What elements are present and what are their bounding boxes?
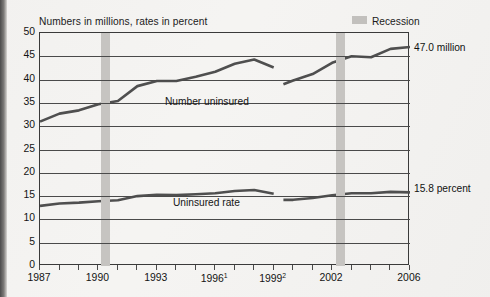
series-label-number-uninsured: Number uninsured — [165, 96, 249, 107]
xtick-label-1999: 19992 — [259, 272, 286, 284]
ytick-label-5: 5 — [11, 236, 35, 247]
xtick-mark-1989 — [78, 265, 79, 270]
callout-uninsured-rate: 15.8 percent — [414, 183, 471, 194]
xtick-mark-1996 — [214, 265, 215, 270]
xtick-label-1993: 1993 — [144, 272, 167, 283]
ytick-label-25: 25 — [11, 143, 35, 154]
xtick-mark-2002 — [331, 265, 332, 270]
xtick-label-2002: 2002 — [319, 272, 342, 283]
gridline-5 — [40, 243, 410, 244]
xtick-label-2006: 2006 — [397, 272, 420, 283]
xtick-mark-1993 — [156, 265, 157, 270]
ytick-label-20: 20 — [11, 166, 35, 177]
xtick-label-1990: 1990 — [86, 272, 109, 283]
ytick-label-50: 50 — [11, 26, 35, 37]
gridline-40 — [40, 80, 410, 81]
plot-area: Number uninsured Uninsured rate — [39, 32, 409, 265]
xtick-mark-1987 — [39, 265, 40, 270]
ytick-label-10: 10 — [11, 212, 35, 223]
recession-swatch-icon — [352, 16, 367, 24]
xtick-mark-1991 — [117, 265, 118, 270]
xtick-mark-1999 — [273, 265, 274, 270]
callout-number-uninsured: 47.0 million — [414, 42, 466, 53]
xtick-mark-2005 — [389, 265, 390, 270]
chart-axis-title: Numbers in millions, rates in percent — [39, 16, 207, 27]
ytick-label-45: 45 — [11, 49, 35, 60]
xtick-mark-1997 — [234, 265, 235, 270]
gridline-45 — [40, 56, 410, 57]
legend-recession: Recession — [352, 16, 420, 27]
ytick-label-35: 35 — [11, 96, 35, 107]
xtick-mark-1995 — [195, 265, 196, 270]
gridline-10 — [40, 219, 410, 220]
series-label-uninsured-rate: Uninsured rate — [173, 197, 240, 208]
gridline-30 — [40, 126, 410, 127]
ytick-label-15: 15 — [11, 189, 35, 200]
xtick-mark-2000 — [292, 265, 293, 270]
xtick-mark-2004 — [370, 265, 371, 270]
gridline-20 — [40, 173, 410, 174]
xtick-mark-1998 — [253, 265, 254, 270]
xtick-mark-1990 — [97, 265, 98, 270]
xtick-label-1996: 19961 — [201, 272, 228, 284]
ytick-label-30: 30 — [11, 119, 35, 130]
xtick-mark-1994 — [175, 265, 176, 270]
chart-figure: Numbers in millions, rates in percent Re… — [0, 0, 490, 297]
xtick-label-1987: 1987 — [27, 272, 50, 283]
page-background: Numbers in millions, rates in percent Re… — [0, 0, 490, 297]
legend-label-recession: Recession — [372, 16, 420, 27]
xtick-mark-1988 — [59, 265, 60, 270]
ytick-label-0: 0 — [11, 259, 35, 270]
gridline-25 — [40, 150, 410, 151]
xtick-mark-1992 — [136, 265, 137, 270]
ytick-label-40: 40 — [11, 73, 35, 84]
line-number-uninsured — [40, 60, 274, 122]
xtick-mark-2006 — [409, 265, 410, 270]
xtick-mark-2001 — [312, 265, 313, 270]
xtick-mark-2003 — [351, 265, 352, 270]
